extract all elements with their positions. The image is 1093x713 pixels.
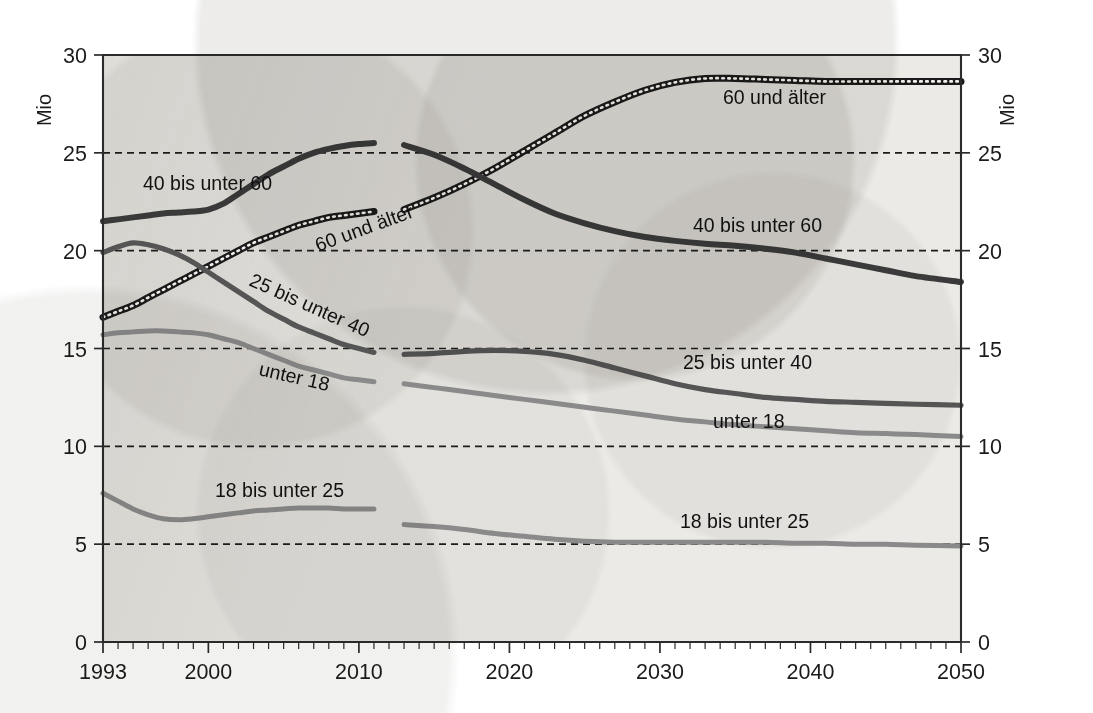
- series-line: [404, 384, 961, 437]
- x-label-2020: 2020: [485, 660, 533, 684]
- series-annotation-8: unter 18: [713, 410, 785, 432]
- x-label-2010: 2010: [335, 660, 383, 684]
- chart-figure: 051015202530 051015202530 19932000201020…: [0, 0, 1093, 713]
- y-label-left-0: 0: [75, 631, 87, 655]
- series-1-projection: [404, 145, 961, 282]
- y-label-left-25: 25: [63, 142, 87, 166]
- series-annotation-5: 60 und älter: [723, 86, 827, 108]
- y-axis-unit-right: Mio: [996, 94, 1018, 126]
- x-label-2000: 2000: [184, 660, 232, 684]
- series-annotation-1: 60 und älter: [312, 200, 417, 256]
- y-label-right-5: 5: [978, 533, 990, 557]
- y-label-left-10: 10: [63, 435, 87, 459]
- series-line-dots: [404, 78, 961, 209]
- y-label-right-10: 10: [978, 435, 1002, 459]
- axis-unit-labels: MioMio: [33, 94, 1018, 126]
- y-axis-labels-left: 051015202530: [63, 44, 87, 655]
- y-label-left-20: 20: [63, 240, 87, 264]
- y-label-right-25: 25: [978, 142, 1002, 166]
- x-label-1993: 1993: [79, 660, 127, 684]
- series-annotations: 40 bis unter 6060 und älter25 bis unter …: [143, 86, 827, 532]
- series-annotation-4: 18 bis unter 25: [215, 479, 344, 501]
- series-3-projection: [404, 384, 961, 437]
- population-line-chart: 051015202530 051015202530 19932000201020…: [0, 0, 1093, 713]
- x-label-2040: 2040: [787, 660, 835, 684]
- y-label-right-0: 0: [978, 631, 990, 655]
- x-label-2050: 2050: [937, 660, 985, 684]
- series-line: [404, 145, 961, 282]
- series-annotation-7: 25 bis unter 40: [683, 351, 812, 373]
- y-label-right-20: 20: [978, 240, 1002, 264]
- series-line-base: [404, 78, 961, 209]
- y-axis-unit-left: Mio: [33, 94, 55, 126]
- series-annotation-0: 40 bis unter 60: [143, 172, 272, 194]
- y-label-right-15: 15: [978, 338, 1002, 362]
- y-label-left-5: 5: [75, 533, 87, 557]
- x-label-2030: 2030: [636, 660, 684, 684]
- series-annotation-9: 18 bis unter 25: [680, 510, 809, 532]
- series-group: [103, 78, 961, 546]
- series-0-projection: [404, 78, 961, 209]
- y-label-left-15: 15: [63, 338, 87, 362]
- series-annotation-6: 40 bis unter 60: [693, 214, 822, 236]
- y-label-right-30: 30: [978, 44, 1002, 68]
- y-label-left-30: 30: [63, 44, 87, 68]
- x-axis-labels: 1993200020102020203020402050: [79, 660, 985, 684]
- y-axis-labels-right: 051015202530: [978, 44, 1002, 655]
